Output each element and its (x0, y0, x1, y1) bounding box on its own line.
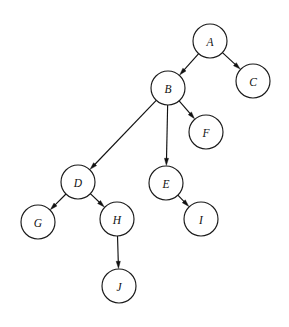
edge-line (183, 54, 198, 71)
node-a[interactable]: A (193, 24, 227, 58)
node-b[interactable]: B (151, 71, 185, 105)
edge-d-to-g (50, 194, 66, 210)
node-h[interactable]: H (100, 202, 134, 236)
edge-b-to-e (164, 105, 168, 166)
node-label: B (164, 83, 171, 95)
node-c[interactable]: C (236, 64, 270, 98)
node-d[interactable]: D (61, 165, 95, 199)
edge-line (166, 105, 167, 160)
node-label: C (249, 76, 257, 88)
edge-a-to-c (222, 53, 240, 70)
arrowhead-icon (164, 158, 168, 165)
edge-a-to-b (180, 54, 199, 75)
node-j[interactable]: J (102, 269, 136, 303)
diagram-canvas: ABCDEFGHIJ (0, 0, 289, 327)
edge-line (90, 194, 100, 203)
node-i[interactable]: I (184, 202, 218, 236)
node-label: H (112, 214, 122, 226)
arrowhead-icon (116, 261, 120, 268)
edge-h-to-j (116, 236, 120, 269)
edges-layer (50, 53, 240, 269)
node-label: J (116, 281, 122, 293)
node-label: E (161, 178, 169, 190)
node-label: F (201, 127, 210, 139)
edge-d-to-h (90, 194, 104, 207)
node-label: D (73, 177, 83, 189)
node-label: A (205, 36, 214, 48)
node-g[interactable]: G (21, 205, 55, 239)
node-label: G (34, 217, 43, 229)
tree-graph: ABCDEFGHIJ (0, 0, 289, 327)
edge-line (118, 236, 119, 263)
edge-e-to-i (178, 195, 189, 206)
edge-line (54, 194, 66, 206)
edge-b-to-f (179, 101, 194, 119)
edge-b-to-d (90, 100, 156, 169)
edge-line (94, 100, 156, 165)
nodes-layer: ABCDEFGHIJ (21, 24, 270, 303)
edge-line (222, 53, 236, 66)
node-e[interactable]: E (149, 166, 183, 200)
edge-line (179, 101, 191, 115)
node-f[interactable]: F (189, 115, 223, 149)
